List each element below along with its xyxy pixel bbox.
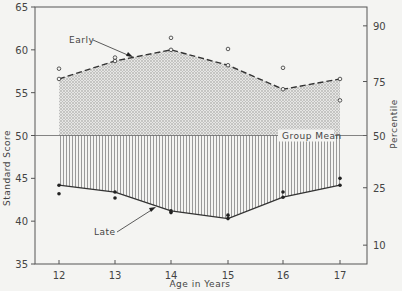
late-point xyxy=(281,195,285,199)
late-individual-point xyxy=(169,211,173,215)
y-tick-label: 45 xyxy=(15,173,28,184)
early-point xyxy=(169,48,173,52)
early-individual-point xyxy=(281,66,285,70)
y2-tick-label: 75 xyxy=(373,77,386,88)
early-individual-point xyxy=(169,36,173,40)
early-arrow xyxy=(93,40,130,56)
group-mean-label: Group Mean xyxy=(282,131,342,141)
y2-axis-title: Percentile xyxy=(389,99,399,148)
y-axis-title: Standard Score xyxy=(2,130,12,206)
early-point xyxy=(226,63,230,67)
x-tick-label: 17 xyxy=(334,270,347,281)
late-individual-point xyxy=(281,190,285,194)
late-point xyxy=(57,183,61,187)
late-point xyxy=(226,217,230,221)
x-tick-label: 13 xyxy=(109,270,122,281)
late-individual-point xyxy=(338,177,342,181)
early-stippled-area xyxy=(59,50,340,136)
early-individual-point xyxy=(226,47,230,51)
y-tick-label: 50 xyxy=(15,131,28,142)
early-point xyxy=(281,87,285,91)
late-hatched-area xyxy=(59,136,340,219)
y-tick-label: 55 xyxy=(15,88,28,99)
late-point xyxy=(338,183,342,187)
y2-tick-label: 10 xyxy=(373,240,386,251)
x-axis-title: Age in Years xyxy=(169,279,230,289)
y2-tick-label: 50 xyxy=(373,131,386,142)
late-arrow xyxy=(117,209,153,232)
late-individual-point xyxy=(226,213,230,217)
early-point xyxy=(338,77,342,81)
y2-tick-label: 25 xyxy=(373,183,386,194)
early-individual-point xyxy=(338,99,342,103)
late-point xyxy=(113,190,117,194)
x-tick-label: 16 xyxy=(277,270,290,281)
early-annotation: Early xyxy=(69,35,94,45)
early-individual-point xyxy=(113,56,117,60)
y-tick-label: 35 xyxy=(15,259,28,270)
chart: 354045505560659075502510121314151617Grou… xyxy=(0,0,402,291)
late-annotation: Late xyxy=(94,227,116,237)
early-individual-point xyxy=(57,67,61,71)
late-individual-point xyxy=(113,196,117,200)
late-individual-point xyxy=(57,192,61,196)
y-tick-label: 65 xyxy=(15,2,28,13)
y2-tick-label: 90 xyxy=(373,21,386,32)
early-arrowhead xyxy=(126,52,133,57)
y-tick-label: 40 xyxy=(15,216,28,227)
y-tick-label: 60 xyxy=(15,45,28,56)
x-tick-label: 12 xyxy=(53,270,66,281)
early-point xyxy=(57,77,61,81)
